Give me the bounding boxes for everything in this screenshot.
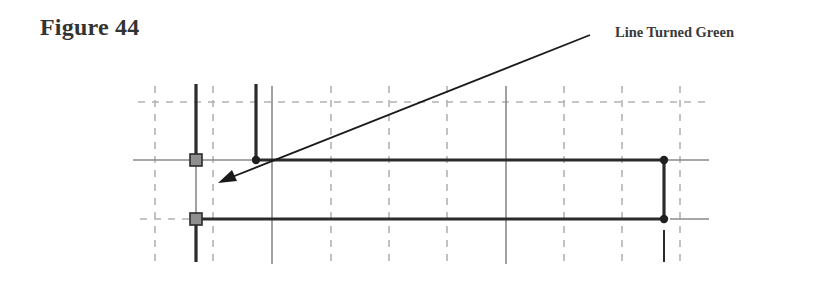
endpoint-square-icon[interactable] xyxy=(190,154,202,166)
cad-diagram xyxy=(0,0,835,283)
vertex-dot-icon[interactable] xyxy=(660,156,668,164)
arrow-shaft xyxy=(232,35,590,177)
thick-lines xyxy=(196,84,664,262)
dashed-grid xyxy=(138,86,712,264)
arrow-head-icon xyxy=(218,170,237,183)
endpoint-square-icon[interactable] xyxy=(190,213,202,225)
vertex-dots xyxy=(252,156,668,223)
vertex-dot-icon[interactable] xyxy=(252,156,260,164)
vertex-dot-icon[interactable] xyxy=(660,215,668,223)
